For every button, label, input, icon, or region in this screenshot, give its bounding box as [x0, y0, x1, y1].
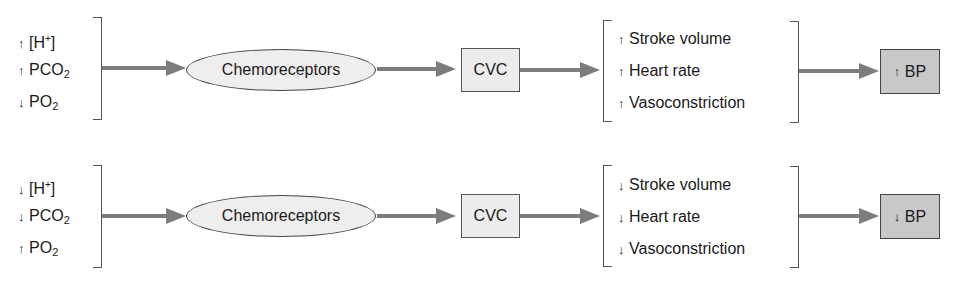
effects-bracket-right — [790, 166, 799, 268]
effect-heart-rate: ↓Heart rate — [618, 208, 700, 226]
effects-bracket-left — [603, 20, 612, 122]
down-arrow-icon: ↓ — [18, 182, 28, 198]
reflex-row-increase: ↑[H+] ↑PCO2 ↓PO2 Chemoreceptors CVC ↑Str… — [0, 0, 961, 142]
arrowhead-icon — [580, 62, 600, 78]
stimulus-pco2: ↑PCO2 — [18, 62, 70, 82]
cvc-node: CVC — [461, 48, 520, 92]
down-arrow-icon: ↓ — [618, 178, 628, 193]
bp-outcome-node: ↑BP — [880, 49, 940, 94]
connector-line — [377, 214, 437, 218]
effect-vasoconstriction: ↓Vasoconstriction — [618, 240, 745, 258]
up-arrow-icon: ↑ — [618, 64, 628, 79]
up-arrow-icon: ↑ — [618, 96, 628, 111]
stimuli-bracket — [93, 165, 102, 268]
down-arrow-icon: ↓ — [894, 209, 904, 224]
reflex-row-decrease: ↓[H+] ↓PCO2 ↑PO2 Chemoreceptors CVC ↓Str… — [0, 147, 961, 284]
stimulus-h-ion: ↑[H+] — [18, 31, 55, 52]
down-arrow-icon: ↓ — [18, 209, 28, 225]
arrowhead-icon — [436, 208, 456, 224]
chemoreceptors-node: Chemoreceptors — [186, 49, 376, 91]
arrowhead-icon — [859, 208, 879, 224]
effect-stroke-volume: ↓Stroke volume — [618, 176, 731, 194]
effect-heart-rate: ↑Heart rate — [618, 62, 700, 80]
arrowhead-icon — [580, 208, 600, 224]
down-arrow-icon: ↓ — [618, 210, 628, 225]
down-arrow-icon: ↓ — [18, 95, 28, 111]
stimulus-po2: ↑PO2 — [18, 240, 58, 260]
connector-line — [377, 67, 437, 71]
effects-bracket-right — [790, 21, 799, 123]
stimulus-pco2: ↓PCO2 — [18, 208, 70, 228]
up-arrow-icon: ↑ — [894, 64, 904, 79]
cvc-node: CVC — [461, 194, 520, 238]
connector-line — [102, 214, 168, 218]
up-arrow-icon: ↑ — [18, 63, 28, 79]
connector-line — [799, 214, 861, 218]
up-arrow-icon: ↑ — [18, 241, 28, 257]
stimuli-bracket — [93, 17, 102, 120]
arrowhead-icon — [166, 60, 186, 76]
arrowhead-icon — [436, 61, 456, 77]
stimulus-h-ion: ↓[H+] — [18, 177, 55, 198]
effect-vasoconstriction: ↑Vasoconstriction — [618, 94, 745, 112]
down-arrow-icon: ↓ — [618, 242, 628, 257]
connector-line — [102, 66, 168, 70]
connector-line — [520, 214, 582, 218]
up-arrow-icon: ↑ — [618, 32, 628, 47]
connector-line — [520, 68, 582, 72]
effects-bracket-left — [603, 165, 612, 267]
arrowhead-icon — [859, 63, 879, 79]
up-arrow-icon: ↑ — [18, 36, 28, 52]
arrowhead-icon — [166, 208, 186, 224]
effect-stroke-volume: ↑Stroke volume — [618, 30, 731, 48]
connector-line — [799, 69, 861, 73]
chemoreceptors-node: Chemoreceptors — [186, 195, 376, 237]
bp-outcome-node: ↓BP — [880, 194, 940, 239]
stimulus-po2: ↓PO2 — [18, 94, 58, 114]
